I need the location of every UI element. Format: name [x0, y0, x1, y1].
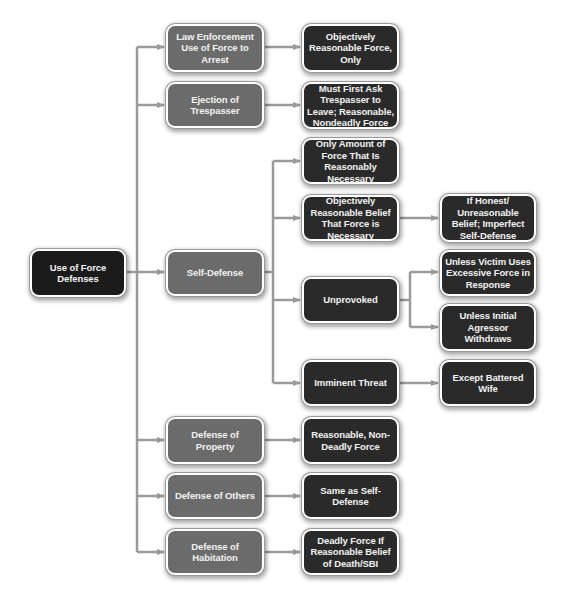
node-unless-victim-excessive-force: Unless Victim Uses Excessive Force in Re…: [440, 250, 536, 296]
node-reasonable-non-deadly-force: Reasonable, Non-Deadly Force: [302, 417, 399, 464]
node-use-of-force-defenses: Use of Force Defenses: [30, 249, 126, 297]
node-same-as-self-defense: Same as Self-Defense: [302, 473, 399, 519]
node-objectively-reasonable-force-only: Objectively Reasonable Force, Only: [302, 24, 399, 72]
node-imminent-threat: Imminent Threat: [302, 360, 399, 406]
node-defense-of-others: Defense of Others: [166, 473, 264, 519]
connector-lines: [0, 0, 562, 597]
node-self-defense: Self-Defense: [166, 250, 264, 296]
node-unless-initial-agressor-withdraws: Unless Initial Agressor Withdraws: [440, 304, 536, 351]
node-only-amount-reasonably-necessary: Only Amount of Force That Is Reasonably …: [302, 138, 399, 184]
node-deadly-force-if-reasonable-belief: Deadly Force If Reasonable Belief of Dea…: [302, 529, 399, 575]
node-unprovoked: Unprovoked: [302, 277, 399, 323]
node-ejection-of-trespasser: Ejection of Trespasser: [166, 82, 264, 128]
node-honest-unreasonable-belief: If Honest/ Unreasonable Belief; Imperfec…: [440, 194, 536, 242]
node-except-battered-wife: Except Battered Wife: [440, 360, 536, 406]
use-of-force-defenses-diagram: Use of Force Defenses Law Enforcement Us…: [0, 0, 562, 597]
node-objectively-reasonable-belief: Objectively Reasonable Belief That Force…: [302, 195, 399, 241]
node-law-enforcement-arrest: Law Enforcement Use of Force to Arrest: [166, 24, 264, 72]
node-must-first-ask-trespasser: Must First Ask Trespasser to Leave; Reas…: [302, 82, 399, 129]
node-defense-of-habitation: Defense of Habitation: [166, 529, 264, 575]
node-defense-of-property: Defense of Property: [166, 417, 264, 464]
